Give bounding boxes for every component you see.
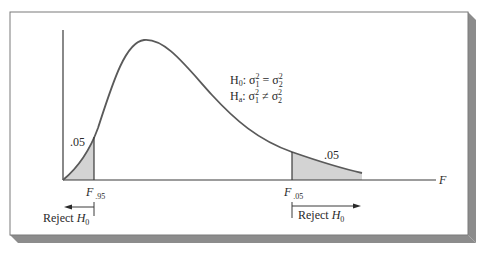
right-reject-label: Reject H0 [298, 208, 344, 224]
alternative-hypothesis: Ha: σ21 ≠ σ22 [230, 88, 282, 105]
left-reject-label: Reject H0 [43, 211, 89, 227]
figure-panel [10, 12, 468, 235]
f-distribution-figure: .05 .05 F F.95 F.05 Reject H0 Reject H0 … [0, 0, 484, 255]
right-area-label: .05 [324, 148, 339, 162]
null-hypothesis: H0: σ21 = σ22 [230, 72, 283, 89]
frame-shadow-right [468, 12, 476, 243]
left-area-label: .05 [70, 135, 85, 149]
frame-shadow-bottom [10, 235, 476, 243]
x-axis-label: F [438, 173, 447, 187]
